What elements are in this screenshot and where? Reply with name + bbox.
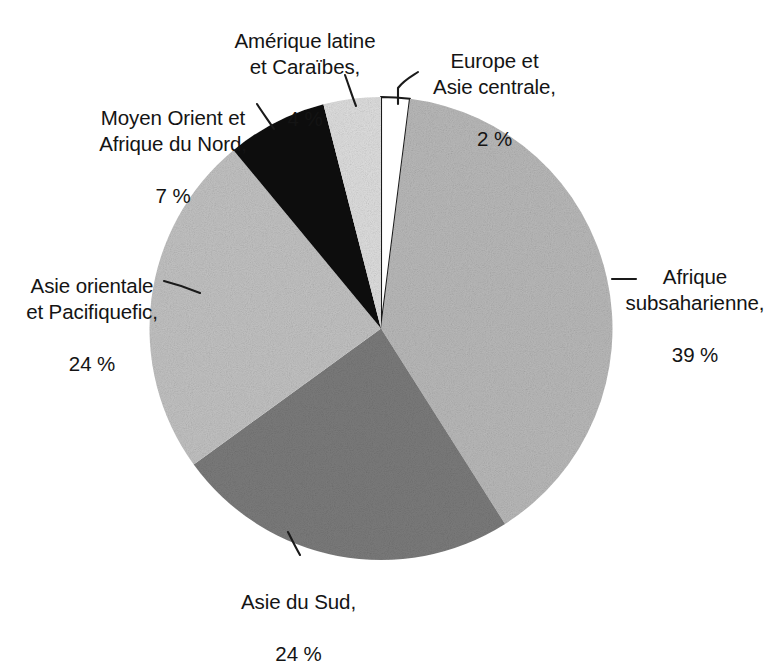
pie-label-asie-du-sud-value: 24 % — [196, 641, 401, 665]
pie-label-asie-orientale-name: Asie orientale et Pacifiquefic, — [0, 273, 188, 325]
pie-label-moyen-orient-value: 7 % — [58, 183, 288, 209]
pie-label-moyen-orient-name: Moyen Orient et Afrique du Nord, — [58, 105, 288, 157]
pie-label-amerique-latine-name: Amérique latine et Caraïbes, — [205, 28, 405, 80]
pie-label-europe: Europe et Asie centrale, 2 % — [402, 22, 587, 178]
pie-label-moyen-orient: Moyen Orient et Afrique du Nord, 7 % — [58, 79, 288, 235]
pie-label-asie-orientale: Asie orientale et Pacifiquefic, 24 % — [0, 247, 188, 403]
pie-label-asie-orientale-value: 24 % — [0, 351, 188, 377]
pie-label-afrique-subsaharienne-value: 39 % — [620, 342, 770, 368]
pie-label-europe-value: 2 % — [402, 126, 587, 152]
pie-label-europe-name: Europe et Asie centrale, — [402, 48, 587, 100]
pie-label-afrique-subsaharienne: Afrique subsaharienne, 39 % — [620, 238, 770, 394]
pie-label-afrique-subsaharienne-name: Afrique subsaharienne, — [620, 264, 770, 316]
pie-label-asie-du-sud: Asie du Sud, 24 % — [196, 563, 401, 665]
pie-label-asie-du-sud-name: Asie du Sud, — [196, 589, 401, 615]
